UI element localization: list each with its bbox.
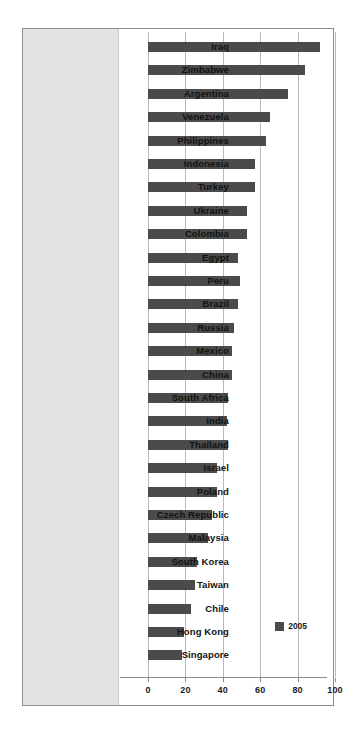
category-label: South Africa [172,386,229,410]
x-tick-40 [223,678,224,682]
x-tick-100 [335,678,336,682]
category-label: Thailand [189,433,229,457]
category-label: Peru [207,269,229,293]
category-label: Hong Kong [177,620,229,644]
category-label: Singapore [182,643,229,667]
category-label-gutter [23,29,119,705]
x-tick-20 [185,678,186,682]
x-tick-60 [260,678,261,682]
category-label: Turkey [198,175,229,199]
bar [148,650,182,660]
category-label: India [206,409,229,433]
x-tick-label: 40 [218,685,228,695]
category-label: Venezuela [182,105,229,129]
x-tick-label: 100 [327,685,343,695]
x-tick-label: 60 [255,685,265,695]
category-label: Philippines [177,129,229,153]
category-label: Zimbabwe [182,58,229,82]
chart-plate: 0204060801002005 IraqZimbabweArgentinaVe… [22,28,334,706]
category-label: Malaysia [189,526,229,550]
category-label: China [202,363,229,387]
category-label: Argentina [184,82,229,106]
category-label: Russia [197,316,229,340]
category-label: Poland [197,480,229,504]
category-label: Colombia [185,222,229,246]
category-label: Ukraine [193,199,229,223]
x-tick-80 [298,678,299,682]
category-label: Chile [205,597,229,621]
bar [148,604,191,614]
category-label: Taiwan [197,573,229,597]
category-label: Brazil [203,292,229,316]
category-label: South Korea [171,550,229,574]
x-tick-label: 0 [145,685,150,695]
category-label: Mexico [196,339,229,363]
x-tick-label: 80 [292,685,302,695]
x-tick-0 [148,678,149,682]
category-label: Egypt [202,246,229,270]
category-label: Indonesia [184,152,229,176]
x-tick-label: 20 [180,685,190,695]
category-label: Czech Republic [157,503,229,527]
bar [148,580,195,590]
category-label: Israel [204,456,229,480]
bar [148,42,320,52]
legend-label: 2005 [288,621,307,631]
chart-figure: 0204060801002005 IraqZimbabweArgentinaVe… [0,0,356,737]
category-label: Iraq [211,35,229,59]
gridline-100 [335,32,336,677]
legend-swatch [275,622,284,631]
